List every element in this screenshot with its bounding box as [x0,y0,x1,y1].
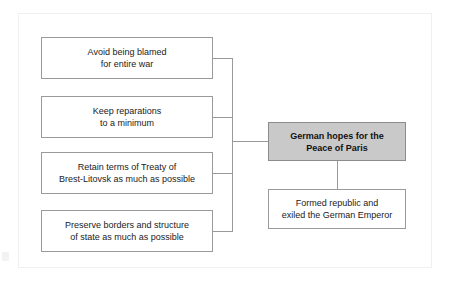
connector-stub-preserve-borders [213,231,233,232]
connector-stub-avoid-being-blamed [213,58,233,59]
node-avoid-being-blamed-label: Avoid being blamed for entire war [88,46,167,70]
diagram-canvas: Avoid being blamed for entire war Keep r… [0,0,452,290]
connector-central-to-outcome [337,161,338,189]
connector-spine-to-central [232,141,268,142]
node-preserve-borders[interactable]: Preserve borders and structure of state … [41,210,213,252]
edge-artifact-mark [2,252,9,261]
node-german-hopes-central[interactable]: German hopes for the Peace of Paris [268,122,406,161]
node-retain-brest-litovsk-label: Retain terms of Treaty of Brest-Litovsk … [59,161,195,185]
node-avoid-being-blamed[interactable]: Avoid being blamed for entire war [41,37,213,79]
node-preserve-borders-label: Preserve borders and structure of state … [65,219,189,243]
connector-stub-retain-brest-litovsk [213,173,233,174]
node-formed-republic-outcome-label: Formed republic and exiled the German Em… [282,197,393,221]
node-formed-republic-outcome[interactable]: Formed republic and exiled the German Em… [268,189,406,229]
node-german-hopes-central-label: German hopes for the Peace of Paris [290,130,384,154]
node-keep-reparations-label: Keep reparations to a minimum [93,105,162,129]
connector-vertical-spine [232,58,233,232]
connector-stub-keep-reparations [213,117,233,118]
node-retain-brest-litovsk[interactable]: Retain terms of Treaty of Brest-Litovsk … [41,152,213,194]
node-keep-reparations[interactable]: Keep reparations to a minimum [41,96,213,138]
